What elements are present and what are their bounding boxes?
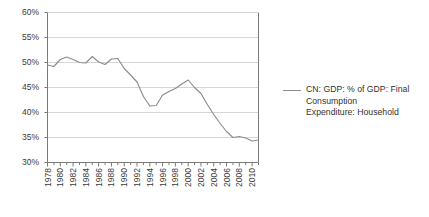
x-axis-tick-marks <box>48 163 259 167</box>
x-axis-label: 1994 <box>145 168 155 187</box>
x-axis-label: 2004 <box>209 168 219 187</box>
x-axis-label: 1986 <box>94 168 104 187</box>
x-axis-label: 1984 <box>81 168 91 187</box>
data-series-group <box>48 57 259 142</box>
x-axis-label: 2008 <box>234 168 244 187</box>
legend-label-line-1: CN: GDP: % of GDP: Final <box>306 84 424 96</box>
y-axis-label: 55% <box>5 32 39 42</box>
x-axis-label: 1990 <box>119 168 129 187</box>
x-axis-label: 1996 <box>158 168 168 187</box>
x-axis-label: 1978 <box>43 168 53 187</box>
y-axis-label: 60% <box>5 7 39 17</box>
x-axis-label: 2000 <box>183 168 193 187</box>
y-axis-label: 30% <box>5 157 39 167</box>
x-axis-label: 1982 <box>68 168 78 187</box>
x-axis-label: 1992 <box>132 168 142 187</box>
series-line <box>48 57 259 142</box>
legend-label-line-2: Consumption <box>306 96 424 108</box>
chart-container: 60%55%50%45%40%35%30% 197819801982198419… <box>0 0 429 217</box>
x-axis-label: 1998 <box>170 168 180 187</box>
x-axis-label: 2002 <box>196 168 206 187</box>
x-axis-label: 2006 <box>222 168 232 187</box>
y-axis-label: 40% <box>5 107 39 117</box>
legend-line-swatch <box>283 90 301 91</box>
x-axis-label: 1980 <box>55 168 65 187</box>
grid-lines <box>48 13 259 138</box>
chart-legend: CN: GDP: % of GDP: Final Consumption Exp… <box>283 84 429 119</box>
y-axis-label: 50% <box>5 57 39 67</box>
y-axis-label: 35% <box>5 132 39 142</box>
legend-label: CN: GDP: % of GDP: Final Consumption Exp… <box>306 84 424 119</box>
legend-item: CN: GDP: % of GDP: Final Consumption Exp… <box>283 84 429 119</box>
y-axis-label: 45% <box>5 82 39 92</box>
x-axis-label: 1988 <box>106 168 116 187</box>
legend-label-line-3: Expenditure: Household <box>306 107 424 119</box>
x-axis-label: 2010 <box>247 168 257 187</box>
